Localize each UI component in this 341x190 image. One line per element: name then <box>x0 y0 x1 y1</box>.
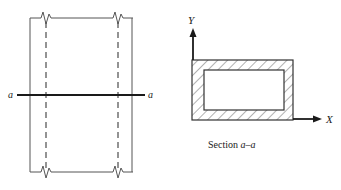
break-symbol-top-left <box>41 12 51 24</box>
technical-figure: a a Y X Section a–a <box>0 0 341 190</box>
x-axis-label: X <box>325 113 334 125</box>
caption-prefix: Section <box>208 139 241 150</box>
beam-elevation <box>17 12 145 178</box>
section-label-left: a <box>8 89 13 100</box>
y-axis-arrow <box>190 28 197 60</box>
x-axis-arrow <box>293 116 322 123</box>
section-label-right: a <box>148 89 153 100</box>
section-inner-boundary <box>204 70 284 110</box>
section-caption: Section a–a <box>208 139 256 150</box>
cross-section <box>192 60 293 120</box>
caption-label-right: a <box>251 139 256 150</box>
break-symbol-top-right <box>113 12 123 24</box>
y-axis-label: Y <box>188 14 196 26</box>
figure-canvas: a a Y X Section a–a <box>0 0 341 190</box>
